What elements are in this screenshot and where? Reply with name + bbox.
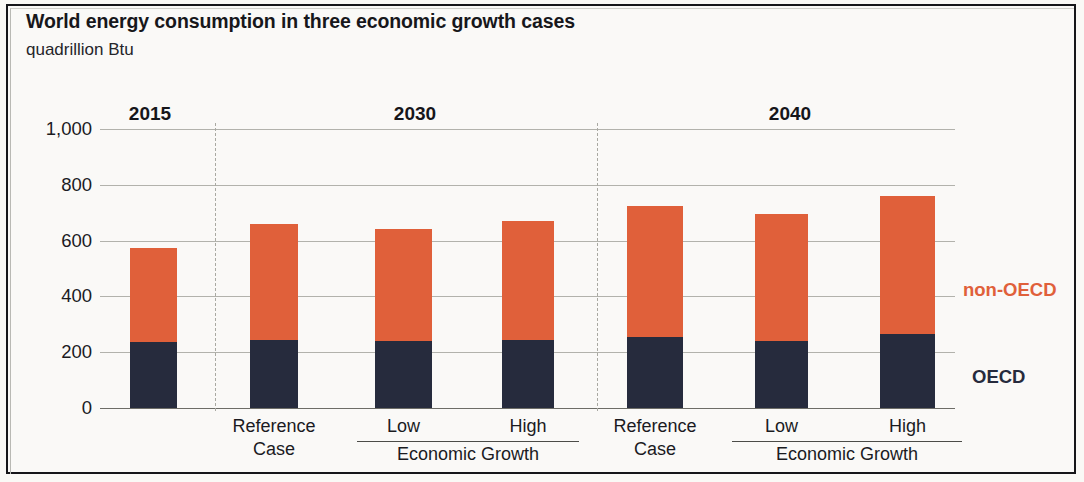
- legend-item-non-oecd: non-OECD: [963, 279, 1057, 301]
- bar-segment-oecd: [627, 337, 683, 408]
- year-label-2040: 2040: [769, 103, 811, 125]
- y-tick-label: 600: [20, 230, 92, 252]
- bar-segment-oecd: [250, 340, 298, 408]
- y-tick-label: 200: [20, 341, 92, 363]
- bar-5: [627, 206, 683, 408]
- bar-6: [755, 214, 808, 408]
- category-label-line1: Low: [387, 417, 420, 436]
- chart-title: World energy consumption in three econom…: [26, 10, 575, 33]
- bracket-rule-1: [357, 441, 579, 442]
- bar-2: [250, 224, 298, 408]
- bar-segment-oecd: [755, 341, 808, 408]
- category-label-line2: Case: [634, 440, 676, 459]
- bar-segment-non-oecd: [755, 214, 808, 341]
- chart-figure: World energy consumption in three econom…: [0, 0, 1084, 482]
- bracket-rule-2: [732, 441, 962, 442]
- bar-segment-oecd: [375, 341, 432, 408]
- bracket-label-economic-growth: Economic Growth: [776, 444, 918, 465]
- bar-segment-non-oecd: [130, 248, 177, 343]
- category-label-line1: High: [889, 417, 926, 436]
- bar-1: [130, 248, 177, 408]
- y-tick-label: 800: [20, 174, 92, 196]
- bar-segment-non-oecd: [502, 221, 554, 340]
- category-label-line2: Case: [253, 440, 295, 459]
- bar-segment-non-oecd: [627, 206, 683, 337]
- bar-3: [375, 229, 432, 408]
- bar-segment-non-oecd: [880, 196, 935, 334]
- group-divider-2: [597, 123, 598, 411]
- gridline-1000: [100, 129, 955, 130]
- category-label-line1: Reference: [232, 417, 315, 436]
- plot-area: [100, 129, 955, 408]
- gridline-800: [100, 185, 955, 186]
- y-tick-label: 1,000: [20, 118, 92, 140]
- bar-segment-non-oecd: [250, 224, 298, 340]
- bracket-label-economic-growth: Economic Growth: [397, 444, 539, 465]
- bar-segment-oecd: [502, 340, 554, 408]
- bar-segment-oecd: [130, 342, 177, 408]
- category-label-line1: Low: [765, 417, 798, 436]
- y-tick-label: 0: [20, 397, 92, 419]
- gridline-0: [100, 408, 955, 409]
- year-label-2015: 2015: [129, 103, 171, 125]
- bar-7: [880, 196, 935, 408]
- bar-segment-oecd: [880, 334, 935, 408]
- year-label-2030: 2030: [394, 103, 436, 125]
- y-axis: 02004006008001,000: [0, 129, 92, 408]
- category-label-line1: Reference: [613, 417, 696, 436]
- group-divider-1: [215, 123, 216, 411]
- chart-subtitle: quadrillion Btu: [26, 40, 134, 60]
- legend-item-oecd: OECD: [972, 366, 1025, 388]
- y-tick-label: 400: [20, 285, 92, 307]
- bar-4: [502, 221, 554, 408]
- bar-segment-non-oecd: [375, 229, 432, 341]
- category-label-line1: High: [509, 417, 546, 436]
